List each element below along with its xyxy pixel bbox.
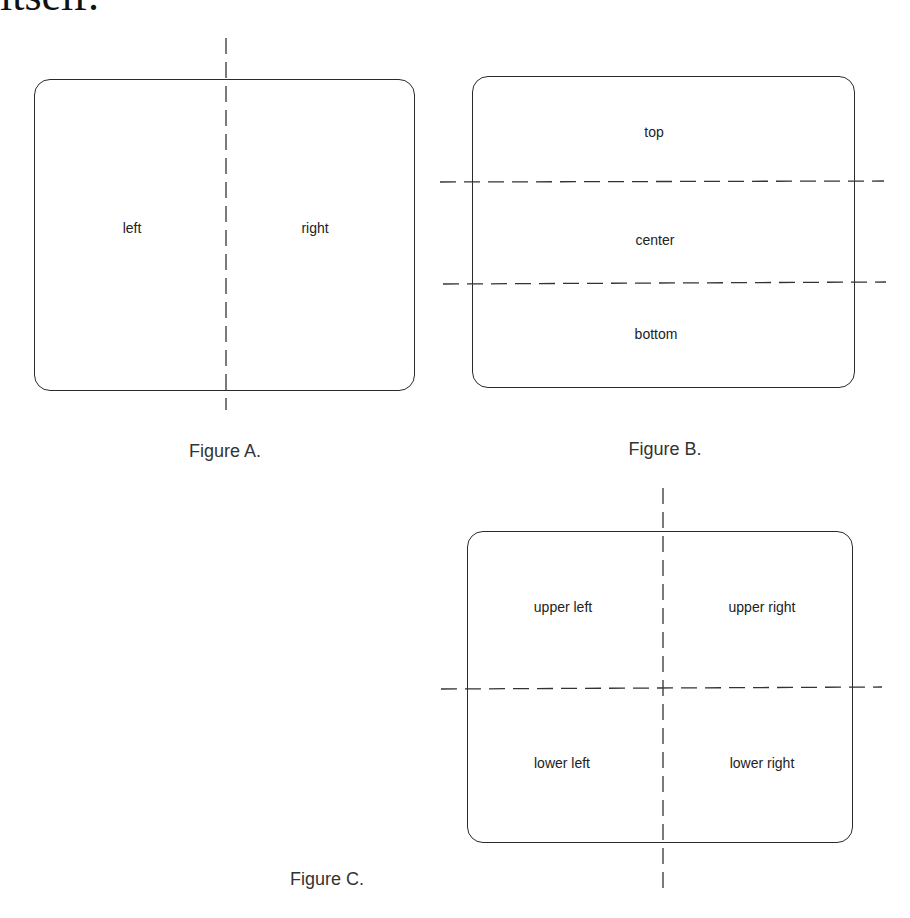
figure-c-caption: Figure C. [290, 869, 364, 890]
header-text-fragment: itself. [0, 0, 99, 21]
figure-a-label-left: left [123, 220, 142, 236]
figure-c-label-lower-left: lower left [534, 755, 590, 771]
figure-a-label-right: right [301, 220, 328, 236]
figure-c-label-lower-right: lower right [730, 755, 795, 771]
figure-b-caption: Figure B. [628, 439, 701, 460]
figure-a-caption: Figure A. [189, 441, 261, 462]
figure-b-label-bottom: bottom [635, 326, 678, 342]
figure-b-label-center: center [636, 232, 675, 248]
figure-a-screen-outline [34, 79, 415, 391]
figure-b-label-top: top [644, 124, 663, 140]
figure-c-screen-outline [467, 531, 853, 843]
figure-c-label-upper-right: upper right [729, 599, 796, 615]
figure-c-label-upper-left: upper left [534, 599, 592, 615]
